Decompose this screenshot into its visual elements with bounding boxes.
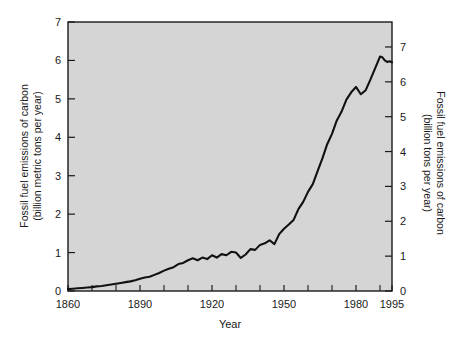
right-tick-label: 2 [400, 215, 406, 227]
left-tick-label: 0 [55, 285, 61, 297]
x-tick-label: 1920 [200, 298, 224, 310]
left-axis-title-line1: Fossil fuel emissions of carbon [18, 84, 30, 228]
right-tick-label: 0 [400, 285, 406, 297]
x-axis-title: Year [219, 318, 242, 330]
plot-area-background [68, 22, 392, 291]
x-tick-label: 1980 [344, 298, 368, 310]
left-tick-label: 7 [55, 16, 61, 28]
right-tick-label: 6 [400, 76, 406, 88]
left-axis-title-line2: (billion metric tons per year) [31, 91, 43, 221]
right-axis-title-line2: (billion tons per year) [422, 114, 434, 212]
left-tick-label: 5 [55, 93, 61, 105]
right-tick-label: 1 [400, 250, 406, 262]
emissions-line-chart: 01234567 01234567 1860189019201950198019… [0, 0, 452, 341]
right-tick-label: 7 [400, 41, 406, 53]
right-tick-label: 5 [400, 111, 406, 123]
right-axis-title-line1: Fossil fuel emissions of carbon [435, 91, 447, 235]
figure-container: 01234567 01234567 1860189019201950198019… [0, 0, 452, 341]
left-tick-label: 1 [55, 247, 61, 259]
right-tick-label: 4 [400, 146, 406, 158]
left-tick-label: 4 [55, 131, 61, 143]
x-tick-label: 1890 [128, 298, 152, 310]
right-tick-label: 3 [400, 180, 406, 192]
x-tick-label: 1950 [272, 298, 296, 310]
left-tick-label: 3 [55, 170, 61, 182]
left-tick-label: 6 [55, 54, 61, 66]
x-tick-label: 1860 [56, 298, 80, 310]
left-tick-label: 2 [55, 208, 61, 220]
x-tick-label: 1995 [380, 298, 404, 310]
